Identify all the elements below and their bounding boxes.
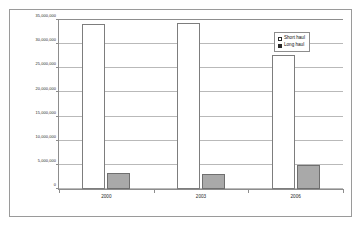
y-axis-tick-label: 5,000,000 [38,159,56,163]
bar-group: 2003 [154,20,249,189]
y-axis-tick-label: 25,000,000 [36,62,56,66]
bar-short-haul-2003 [177,23,200,189]
x-axis-tick-label: 2000 [101,195,111,200]
legend-label-short-haul: Short haul [284,36,305,41]
bar-short-haul-2006 [272,55,295,189]
bar-chart-figure: 05,000,00010,000,00015,000,00020,000,000… [9,9,352,217]
x-axis-tick-label: 2006 [291,195,301,200]
y-axis-tick-label: 10,000,000 [36,135,56,139]
y-axis-tick-label: 0 [54,183,56,187]
y-axis-tick-label: 15,000,000 [36,111,56,115]
legend-swatch-long-haul [278,44,282,48]
x-axis-tick-mark [248,189,249,193]
chart-legend: Short haul Long haul [274,32,310,52]
y-axis-tick-label: 20,000,000 [36,87,56,91]
legend-item-long-haul: Long haul [278,42,305,49]
bar-long-haul-2003 [202,174,225,189]
legend-item-short-haul: Short haul [278,35,305,42]
bar-long-haul-2000 [107,173,130,189]
x-axis-tick-label: 2003 [196,195,206,200]
bar-long-haul-2006 [297,165,320,189]
bar-group: 2000 [59,20,154,189]
legend-label-long-haul: Long haul [284,43,304,48]
x-axis-tick-mark [343,189,344,193]
x-axis-tick-mark [154,189,155,193]
y-axis-tick-label: 30,000,000 [36,38,56,42]
bar-short-haul-2000 [82,24,105,189]
legend-swatch-short-haul [278,37,282,41]
y-axis-tick-label: 35,000,000 [36,14,56,18]
x-axis-tick-mark [59,189,60,193]
